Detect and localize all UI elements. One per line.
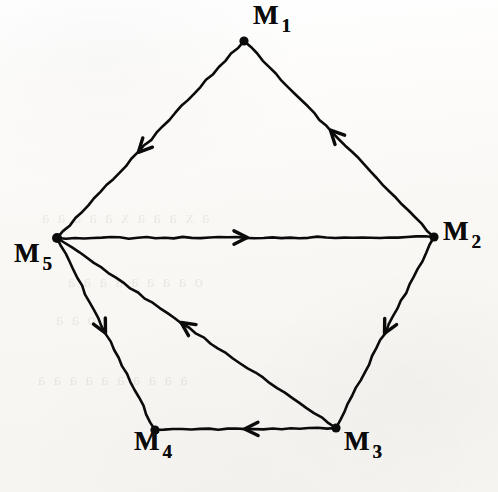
node-label-m4: M4: [134, 428, 169, 455]
graph-node-dot: [429, 232, 438, 241]
node-label-m2: M2: [443, 218, 478, 245]
graph-node-dot: [239, 36, 248, 45]
node-label-base: M: [14, 238, 39, 268]
node-label-subscript: 3: [372, 441, 382, 462]
arrowhead-layer: [93, 130, 396, 435]
node-label-subscript: 4: [162, 441, 172, 462]
edge-arrowhead: [181, 323, 196, 336]
node-label-base: M: [344, 426, 369, 456]
graph-node-dot: [331, 423, 340, 432]
graph-node-dot: [52, 233, 62, 243]
node-label-base: M: [134, 426, 159, 456]
node-label-subscript: 5: [42, 253, 52, 274]
node-label-base: M: [443, 216, 468, 246]
node-label-subscript: 2: [471, 231, 481, 252]
figure-canvas: a x a a a x a a a a ao a a a a a a a ao …: [0, 0, 498, 492]
graph-edge: [57, 238, 336, 428]
graph-edge: [244, 41, 434, 237]
node-label-subscript: 1: [281, 15, 291, 36]
node-label-m3: M3: [344, 428, 379, 455]
graph-edge: [57, 41, 244, 238]
node-label-m1: M1: [253, 2, 288, 29]
directed-graph: [0, 0, 498, 492]
node-label-m5: M5: [14, 240, 49, 267]
node-label-base: M: [253, 0, 278, 30]
